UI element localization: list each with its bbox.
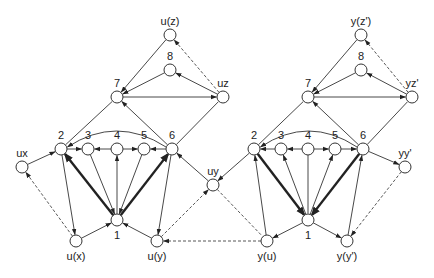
node-right-m7: 7 [302, 77, 314, 103]
node-label: 7 [114, 77, 120, 89]
edge-left-n1-to-n2 [65, 154, 113, 215]
node-right-yz_top: y(z') [351, 15, 371, 41]
edge-right-m1-to-m5 [310, 155, 333, 214]
node-left-uy: uy [207, 165, 219, 191]
edge-right-m1-to-yu_b [273, 223, 303, 238]
node-left-uy_b: u(y) [148, 235, 167, 262]
node-circle [111, 214, 123, 226]
node-circle [151, 235, 163, 247]
node-right-m8: 8 [355, 50, 367, 76]
edge-left-n1-to-n6 [121, 154, 168, 215]
node-left-uz_top: u(z) [161, 15, 180, 41]
edge-right-yz_top-to-m7 [312, 40, 357, 92]
edge-left-n6-to-uz [176, 102, 218, 145]
node-right-m2: 2 [248, 129, 260, 155]
node-circle [207, 179, 219, 191]
node-label: uz [217, 77, 229, 89]
node-label: uy [207, 165, 219, 177]
edge-left-ux-to-n2 [27, 152, 55, 165]
node-circle [302, 91, 314, 103]
node-label: 4 [305, 129, 311, 141]
node-label: u(x) [67, 250, 86, 262]
edge-left-n6-to-uy_b [158, 155, 171, 235]
edge-left-uz_top-to-n7 [121, 40, 166, 92]
edge-right-m6-to-yy [369, 151, 400, 164]
node-label: ux [16, 147, 28, 159]
node-circle [399, 161, 411, 173]
node-label: 4 [114, 129, 120, 141]
node-circle [138, 143, 150, 155]
edge-left-uz-to-uz_top [174, 40, 219, 92]
node-label: y(y') [337, 250, 357, 262]
node-circle [341, 235, 353, 247]
node-circle [217, 91, 229, 103]
node-circle [164, 64, 176, 76]
node-label: y(z') [351, 15, 371, 27]
node-right-m6: 6 [357, 129, 369, 155]
node-label: u(y) [148, 250, 167, 262]
edge-left-ux_b-to-n1 [81, 223, 111, 238]
node-label: 5 [332, 129, 338, 141]
node-left-n7: 7 [111, 77, 123, 103]
node-label: 8 [167, 50, 173, 62]
node-circle [355, 29, 367, 41]
edge-left-uy_b-to-uy [161, 190, 208, 237]
edge-right-m2-to-m1 [258, 154, 304, 215]
node-circle [357, 143, 369, 155]
edge-right-m6-to-m1 [312, 154, 359, 215]
node-left-n6: 6 [166, 129, 178, 155]
graph-diagram: u(z)87uz23456uxuy1u(x)u(y)y(z')87yz'2345… [0, 0, 434, 278]
node-circle [406, 91, 418, 103]
edge-left-n5-to-n1 [119, 155, 142, 214]
edge-right-m2-to-uy [218, 153, 250, 181]
edge-left-uy-to-n6 [177, 153, 209, 181]
edge-right-yz-to-yz_top [365, 40, 408, 92]
node-right-yu_b: y(u) [258, 235, 277, 262]
edge-right-yu_b-to-m2 [255, 155, 266, 235]
node-label: 3 [85, 129, 91, 141]
node-label: 6 [169, 129, 175, 141]
node-right-yz: yz' [405, 77, 418, 103]
edge-right-m6-to-yz [367, 102, 407, 145]
node-circle [111, 91, 123, 103]
edge-left-n3-to-n1 [90, 155, 114, 214]
node-left-n3: 3 [82, 129, 94, 155]
node-left-n8: 8 [164, 50, 176, 76]
node-circle [248, 143, 260, 155]
node-circle [355, 64, 367, 76]
edge-right-uy-to-yu_b [217, 189, 262, 236]
node-label: 8 [358, 50, 364, 62]
edge-left-n2-to-ux_b [62, 155, 75, 235]
node-label: 5 [141, 129, 147, 141]
node-right-m1: 1 [302, 214, 314, 241]
node-circle [261, 235, 273, 247]
node-left-ux: ux [16, 147, 28, 173]
node-right-m3: 3 [275, 129, 287, 155]
edge-left-uy_b-to-n1 [123, 223, 152, 238]
node-circle [55, 143, 67, 155]
node-label: yy' [398, 147, 411, 159]
node-label: 6 [360, 129, 366, 141]
node-circle [302, 214, 314, 226]
node-left-n1: 1 [111, 214, 123, 241]
node-label: u(z) [161, 15, 180, 27]
node-circle [16, 161, 28, 173]
node-circle [275, 143, 287, 155]
node-right-yy: yy' [398, 147, 411, 173]
nodes-layer: u(z)87uz23456uxuy1u(x)u(y)y(z')87yz'2345… [16, 15, 419, 262]
edge-right-m1-to-m3 [283, 155, 306, 214]
node-left-uz: uz [217, 77, 229, 103]
node-circle [164, 29, 176, 41]
node-circle [70, 235, 82, 247]
node-label: y(u) [258, 250, 277, 262]
edges-layer [26, 40, 408, 241]
node-left-ux_b: u(x) [67, 235, 86, 262]
node-label: 1 [305, 229, 311, 241]
node-right-yy_b: y(y') [337, 235, 357, 262]
node-circle [302, 143, 314, 155]
node-left-n2: 2 [55, 129, 67, 155]
node-right-m4: 4 [302, 129, 314, 155]
node-circle [166, 143, 178, 155]
node-circle [82, 143, 94, 155]
node-left-n5: 5 [138, 129, 150, 155]
